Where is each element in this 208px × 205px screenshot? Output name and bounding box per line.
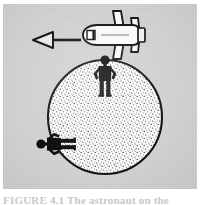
person-top-leg-left	[100, 80, 104, 96]
person-top-head	[100, 55, 109, 64]
figure-caption: FIGURE 4.1 The astronaut on the	[3, 195, 199, 205]
person-left-torso	[47, 138, 61, 151]
motion-arrow-group	[33, 32, 81, 48]
person-top-neck	[103, 63, 106, 66]
person-top-leg-right	[106, 80, 110, 96]
person-left-foot-right	[74, 138, 76, 143]
person-left-neck	[44, 142, 47, 145]
figure-caption-text: FIGURE 4.1 The astronaut on the	[3, 195, 169, 205]
person-left-foot-left	[74, 145, 76, 150]
figure-root: FIGURE 4.1 The astronaut on the	[0, 0, 208, 205]
figure-panel	[3, 4, 197, 189]
person-left-leg-left	[60, 145, 75, 149]
motion-arrow-head	[33, 32, 53, 48]
airplane-tail-block	[138, 28, 145, 42]
person-top-foot-left	[98, 94, 104, 96]
person-top-torso	[99, 66, 112, 81]
airplane-cockpit-bar	[92, 31, 94, 39]
figure-artwork	[3, 4, 197, 189]
person-left-leg-right	[60, 139, 75, 143]
person-left-head	[36, 139, 45, 148]
person-top-foot-right	[106, 94, 112, 96]
airplane-group	[83, 11, 145, 59]
